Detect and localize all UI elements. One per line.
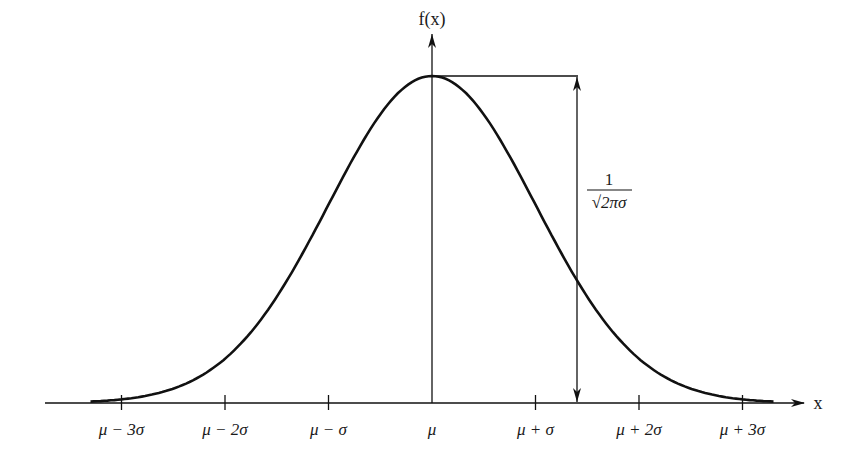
y-axis-label: f(x) <box>419 9 446 30</box>
tick-label: μ − 2σ <box>201 420 248 439</box>
tick-label: μ − σ <box>309 420 348 439</box>
x-axis-label: x <box>814 393 823 413</box>
fraction-numerator: 1 <box>605 170 614 189</box>
tick-label: μ <box>427 420 437 439</box>
tick-label: μ − 3σ <box>98 420 145 439</box>
tick-label: μ + σ <box>516 420 555 439</box>
normal-distribution-diagram: f(x) x μ − 3σμ − 2σμ − σμμ + σμ + 2σμ + … <box>0 0 858 469</box>
tick-label: μ + 2σ <box>615 420 662 439</box>
fraction-denominator: √2πσ <box>592 193 627 212</box>
peak-height-annotation: 1 √2πσ <box>587 170 632 212</box>
tick-label: μ + 3σ <box>719 420 766 439</box>
